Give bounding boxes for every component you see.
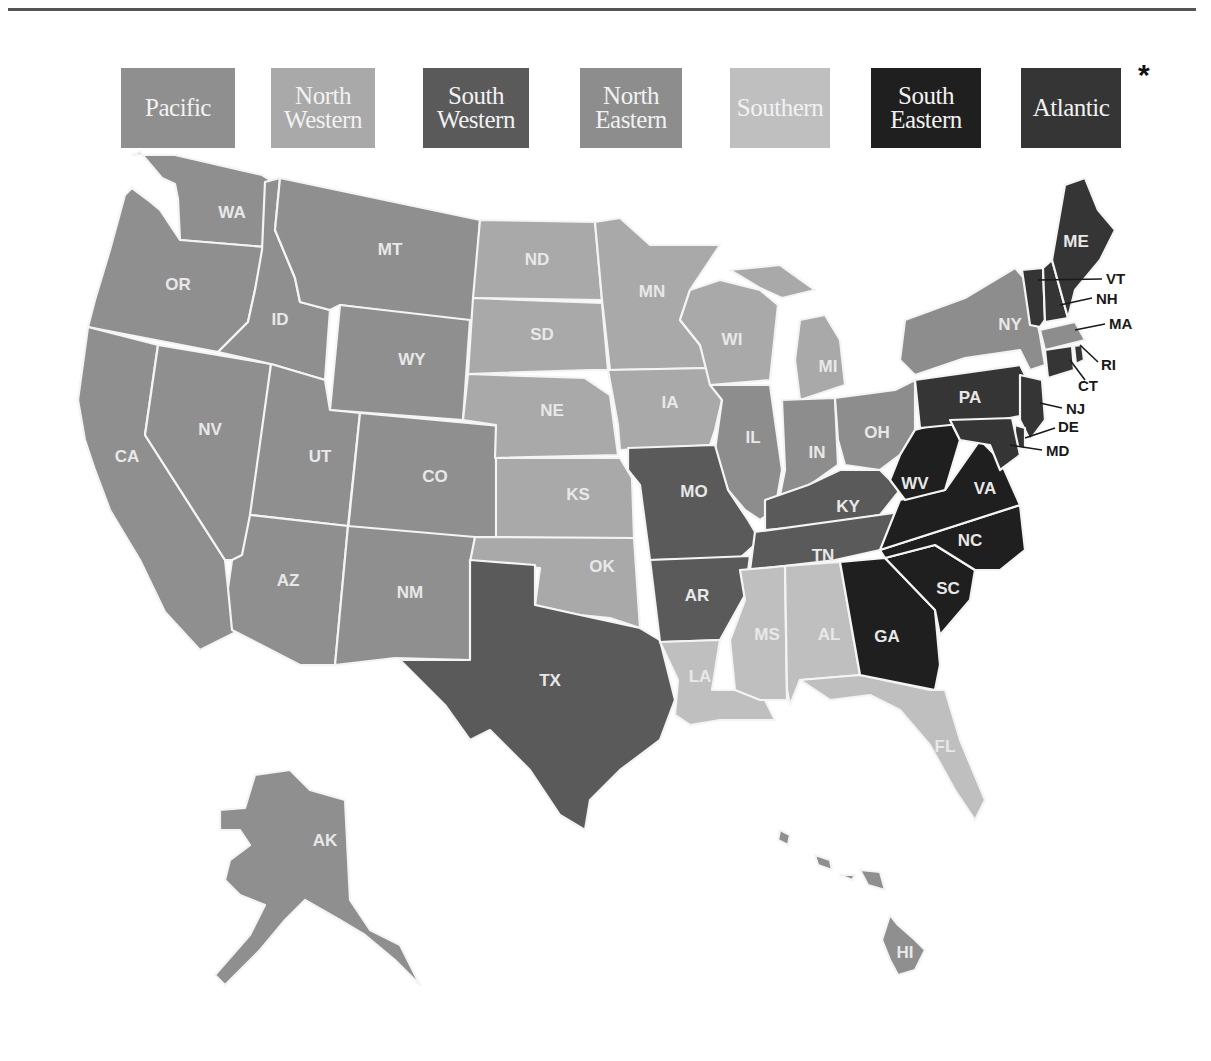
- label-NJ: NJ: [1066, 400, 1085, 417]
- label-IL: IL: [745, 428, 760, 447]
- state-CT: [1045, 346, 1074, 378]
- label-MN: MN: [639, 282, 665, 301]
- label-AZ: AZ: [277, 571, 300, 590]
- state-AK: [215, 770, 420, 985]
- label-WA: WA: [218, 203, 245, 222]
- label-GA: GA: [874, 627, 900, 646]
- label-DE: DE: [1058, 418, 1079, 435]
- label-TX: TX: [539, 671, 561, 690]
- label-ID: ID: [272, 310, 289, 329]
- label-KS: KS: [566, 485, 590, 504]
- label-HI: HI: [897, 943, 914, 962]
- label-AK: AK: [313, 831, 338, 850]
- label-CA: CA: [115, 447, 140, 466]
- label-WY: WY: [398, 350, 426, 369]
- label-ND: ND: [525, 250, 550, 269]
- label-OH: OH: [864, 423, 890, 442]
- label-CT: CT: [1078, 377, 1098, 394]
- label-NE: NE: [540, 401, 564, 420]
- label-LA: LA: [689, 667, 712, 686]
- state-FL: [800, 675, 985, 820]
- label-MD: MD: [1046, 442, 1069, 459]
- label-TN: TN: [812, 546, 835, 565]
- label-AR: AR: [685, 586, 710, 605]
- label-OR: OR: [165, 275, 191, 294]
- label-VA: VA: [974, 479, 996, 498]
- label-NV: NV: [198, 420, 222, 439]
- label-RI: RI: [1101, 356, 1116, 373]
- label-AL: AL: [818, 625, 841, 644]
- label-MT: MT: [378, 240, 403, 259]
- us-regions-map: WA OR CA NV ID MT WY UT CO AZ NM ND SD N…: [0, 0, 1211, 1061]
- label-WI: WI: [722, 330, 743, 349]
- label-KY: KY: [836, 497, 860, 516]
- label-FL: FL: [935, 737, 956, 756]
- label-WV: WV: [901, 474, 929, 493]
- label-PA: PA: [959, 388, 981, 407]
- label-MS: MS: [754, 625, 780, 644]
- label-OK: OK: [589, 557, 615, 576]
- label-IN: IN: [809, 443, 826, 462]
- state-AZ: [228, 515, 348, 665]
- label-VT: VT: [1106, 270, 1125, 287]
- label-CO: CO: [422, 467, 448, 486]
- label-MA: MA: [1109, 315, 1132, 332]
- label-SD: SD: [530, 325, 554, 344]
- label-UT: UT: [309, 447, 332, 466]
- label-ME: ME: [1063, 232, 1089, 251]
- leader-VT: [1038, 279, 1102, 280]
- label-NC: NC: [958, 531, 983, 550]
- state-KS: [496, 458, 634, 542]
- leader-MA: [1075, 324, 1105, 330]
- label-MI: MI: [819, 357, 838, 376]
- label-MO: MO: [680, 482, 707, 501]
- label-NM: NM: [397, 583, 423, 602]
- label-IA: IA: [662, 393, 679, 412]
- label-NY: NY: [998, 315, 1022, 334]
- label-SC: SC: [936, 579, 960, 598]
- label-NH: NH: [1096, 290, 1118, 307]
